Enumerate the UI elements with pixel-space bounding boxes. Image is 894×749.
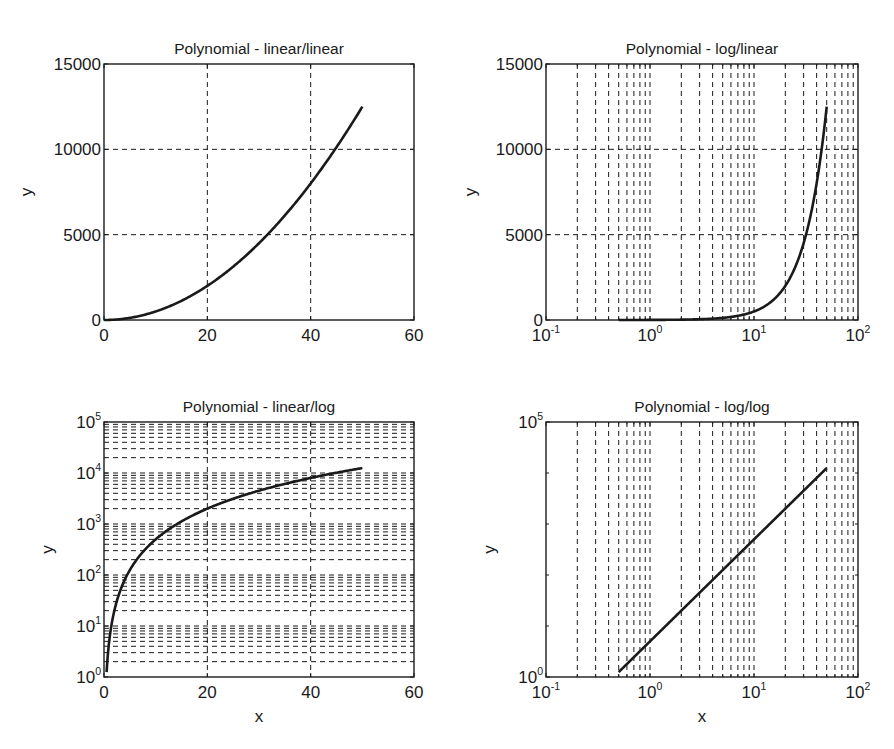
grid-lines: [104, 64, 414, 320]
tick-marks: [546, 422, 858, 677]
x-axis-label: x: [255, 707, 264, 726]
chart-title: Polynomial - linear/log: [183, 398, 336, 415]
y-tick-label: 5000: [63, 226, 101, 245]
y-tick-label: 105: [76, 410, 101, 432]
y-tick-label: 0: [92, 311, 101, 330]
data-line: [104, 107, 362, 320]
x-axis-label: x: [698, 707, 707, 726]
x-tick-label: 60: [405, 683, 424, 702]
y-tick-label: 15000: [496, 55, 543, 74]
axes-box: [546, 64, 858, 320]
x-tick-label: 0: [99, 683, 108, 702]
x-tick-label: 60: [405, 326, 424, 345]
x-tick-label: 101: [742, 323, 767, 345]
subplot-linear-linear: 0204060050001000015000Polynomial - linea…: [17, 40, 423, 345]
axes-box: [104, 422, 414, 677]
y-tick-label: 103: [76, 512, 101, 534]
subplot-log-linear: 10-1100101102050001000015000Polynomial -…: [461, 40, 871, 345]
axes-box: [546, 422, 858, 677]
tick-marks: [546, 64, 858, 320]
x-tick-label: 102: [846, 680, 871, 702]
chart-title: Polynomial - log/log: [634, 398, 769, 415]
figure: 0204060050001000015000Polynomial - linea…: [0, 0, 894, 749]
chart-title: Polynomial - log/linear: [626, 40, 779, 57]
y-tick-label: 10000: [54, 140, 101, 159]
tick-marks: [104, 64, 414, 320]
x-tick-label: 101: [742, 680, 767, 702]
x-tick-label: 100: [638, 323, 663, 345]
y-tick-label: 101: [76, 614, 101, 636]
y-tick-label: 100: [76, 665, 101, 687]
subplot-linear-log: 0204060100101102103104105Polynomial - li…: [38, 398, 423, 726]
y-tick-label: 104: [76, 461, 101, 483]
x-tick-label: 20: [198, 326, 217, 345]
y-axis-label: y: [17, 187, 36, 196]
x-tick-label: 20: [198, 683, 217, 702]
x-tick-label: 40: [301, 683, 320, 702]
grid-lines: [104, 422, 414, 677]
x-tick-label: 100: [638, 680, 663, 702]
x-tick-label: 40: [301, 326, 320, 345]
y-tick-label: 10000: [496, 140, 543, 159]
grid-lines: [577, 422, 853, 677]
y-axis-label: y: [461, 187, 480, 196]
y-axis-label: y: [38, 545, 57, 554]
y-axis-label: y: [480, 545, 499, 554]
y-tick-label: 0: [534, 311, 543, 330]
subplot-log-log: 10-1100101102100105Polynomial - log/logy…: [480, 398, 871, 726]
figure-canvas: 0204060050001000015000Polynomial - linea…: [0, 0, 894, 749]
y-tick-label: 102: [76, 563, 101, 585]
y-tick-label: 105: [518, 410, 543, 432]
y-tick-label: 15000: [54, 55, 101, 74]
axes-box: [104, 64, 414, 320]
chart-title: Polynomial - linear/linear: [174, 40, 344, 57]
x-tick-label: 102: [846, 323, 871, 345]
y-tick-label: 5000: [505, 226, 543, 245]
grid-lines: [546, 64, 858, 320]
tick-marks: [104, 422, 414, 677]
